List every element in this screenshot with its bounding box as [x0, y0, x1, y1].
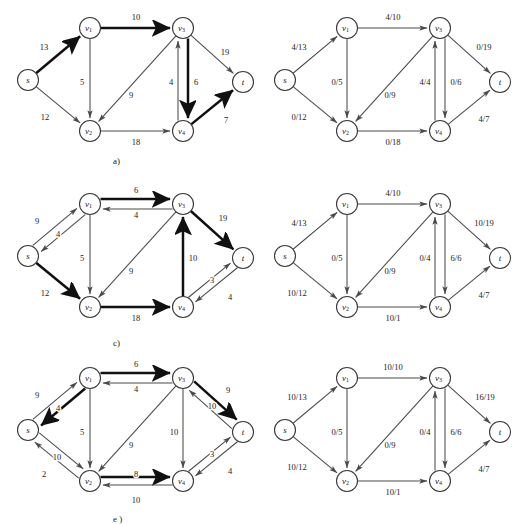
edge-label-v3-v1: 4 — [134, 384, 139, 394]
figure-sheet: 131312125510109918184466191977sv1v2v3v4t… — [0, 0, 515, 524]
edge-layer: 99441212556644991818101019193344 — [33, 185, 238, 323]
graph-panel-e: 99441010225566449988101010109910103344sv… — [0, 350, 257, 524]
node-t[interactable]: t — [490, 422, 511, 443]
edge-label-v4-v3: 0/6 — [451, 77, 462, 87]
edge-label-v4-t: 3 — [210, 275, 214, 285]
edge-label-v2-v4: 18 — [132, 137, 141, 147]
edge-layer: 4/134/130/120/120/50/54/104/100/90/90/18… — [291, 12, 491, 147]
graph-panel-d: 4/134/1310/1210/120/50/54/104/100/90/910… — [257, 176, 514, 350]
node-v3[interactable]: v3 — [173, 18, 194, 39]
node-s[interactable]: s — [18, 420, 39, 441]
node-t[interactable]: t — [490, 72, 511, 93]
edge-label-v4-t: 3 — [210, 449, 214, 459]
edge-label-v1-v2: 5 — [80, 253, 84, 263]
edge-label-v4-t: 4/7 — [479, 464, 490, 474]
node-v2[interactable]: v2 — [80, 297, 101, 318]
node-v4[interactable]: v4 — [173, 471, 194, 492]
edge-label-v1-v3: 10/10 — [383, 362, 402, 372]
node-v2[interactable]: v2 — [80, 121, 101, 142]
edge-label-s-v2: 0/12 — [291, 112, 306, 122]
node-v1[interactable]: v1 — [80, 194, 101, 215]
edge-label-t-v4: 4 — [228, 466, 233, 476]
node-s[interactable]: s — [18, 70, 39, 91]
node-t[interactable]: t — [233, 422, 254, 443]
node-v1[interactable]: v1 — [337, 18, 358, 39]
edge-layer: 99441010225566449988101010109910103344 — [33, 359, 238, 505]
edge-label-v4-v3: 6 — [194, 77, 198, 87]
edge-label-s-v2: 10/12 — [287, 462, 306, 472]
edge-label-s-v2: 2 — [42, 469, 46, 479]
node-v2[interactable]: v2 — [337, 471, 358, 492]
panel-caption-c: c) — [113, 338, 120, 348]
edge-label-v3-v2: 9 — [129, 266, 133, 276]
node-s[interactable]: s — [275, 70, 296, 91]
node-v3[interactable]: v3 — [430, 368, 451, 389]
node-v4[interactable]: v4 — [430, 121, 451, 142]
edge-v3-to-v2 — [99, 212, 176, 298]
node-layer: sv1v2v3v4t — [275, 368, 511, 492]
edge-v3-to-t — [448, 385, 491, 423]
edge-label-s-v1: 4 — [56, 229, 61, 239]
panel-caption-e: e ) — [113, 514, 122, 524]
node-v1[interactable]: v1 — [337, 194, 358, 215]
node-t[interactable]: t — [233, 72, 254, 93]
edge-label-v3-v4: 4/4 — [420, 77, 432, 87]
node-s[interactable]: s — [275, 420, 296, 441]
node-v2[interactable]: v2 — [337, 297, 358, 318]
node-label-s: s — [26, 425, 30, 435]
edge-label-v3-v4: 0/4 — [420, 427, 432, 437]
node-v3[interactable]: v3 — [430, 18, 451, 39]
edge-label-s-v1: 4/13 — [291, 218, 306, 228]
edge-label-v2-v4: 10/1 — [385, 487, 400, 497]
node-v3[interactable]: v3 — [173, 368, 194, 389]
node-v4[interactable]: v4 — [430, 297, 451, 318]
edge-label-v3-v2: 9 — [129, 90, 133, 100]
edge-label-v3-v2: 0/9 — [385, 90, 396, 100]
edge-label-v2-v4: 8 — [134, 469, 138, 479]
edge-label-v1-v2: 5 — [80, 77, 84, 87]
edge-label-v3-v1: 4 — [134, 210, 139, 220]
graph-panel-a: 131312125510109918184466191977sv1v2v3v4t — [0, 0, 257, 174]
edge-label-s-v1: 4/13 — [291, 42, 306, 52]
node-v1[interactable]: v1 — [80, 18, 101, 39]
node-s[interactable]: s — [18, 246, 39, 267]
edge-label-v1-v3: 10 — [132, 12, 141, 22]
node-v1[interactable]: v1 — [337, 368, 358, 389]
graph-panel-b: 4/134/130/120/120/50/54/104/100/90/90/18… — [257, 0, 514, 174]
node-v2[interactable]: v2 — [337, 121, 358, 142]
node-label-s: s — [26, 75, 30, 85]
edge-label-v3-v4: 4 — [169, 77, 174, 87]
node-t[interactable]: t — [490, 248, 511, 269]
node-label-s: s — [26, 251, 30, 261]
edge-label-s-v2: 12 — [41, 288, 50, 298]
edge-label-v1-v3: 6 — [134, 359, 138, 369]
edge-label-v4-t: 7 — [224, 115, 228, 125]
panel-caption-a: a) — [113, 156, 120, 166]
edge-label-v4-v2: 10 — [132, 495, 141, 505]
edge-label-v1-v2: 0/5 — [332, 253, 343, 263]
node-t[interactable]: t — [233, 248, 254, 269]
edge-label-t-v4: 4 — [228, 292, 233, 302]
node-v1[interactable]: v1 — [80, 368, 101, 389]
edge-label-v1-v3: 4/10 — [385, 188, 400, 198]
node-v4[interactable]: v4 — [173, 297, 194, 318]
node-v4[interactable]: v4 — [430, 471, 451, 492]
edge-label-v3-t: 10/19 — [474, 218, 493, 228]
edge-label-v4-t: 4/7 — [479, 114, 490, 124]
node-v2[interactable]: v2 — [80, 471, 101, 492]
edge-layer: 4/134/1310/1210/120/50/54/104/100/90/910… — [287, 188, 493, 323]
node-s[interactable]: s — [275, 246, 296, 267]
edge-layer: 10/1310/1310/1210/120/50/510/1010/100/90… — [287, 362, 494, 497]
node-v3[interactable]: v3 — [173, 194, 194, 215]
node-layer: sv1v2v3v4t — [275, 194, 511, 318]
edge-label-v1-v2: 0/5 — [332, 427, 343, 437]
edge-label-v1-s: 9 — [35, 390, 39, 400]
edge-label-v4-v3: 6/6 — [451, 427, 462, 437]
edge-label-v3-t: 16/19 — [475, 392, 494, 402]
edge-v3-to-v2 — [99, 36, 176, 122]
node-v4[interactable]: v4 — [173, 121, 194, 142]
node-v3[interactable]: v3 — [430, 194, 451, 215]
node-layer: sv1v2v3v4t — [275, 18, 511, 142]
edge-label-v3-t: 19 — [221, 47, 230, 57]
graph-panel-c: 99441212556644991818101019193344sv1v2v3v… — [0, 176, 257, 350]
